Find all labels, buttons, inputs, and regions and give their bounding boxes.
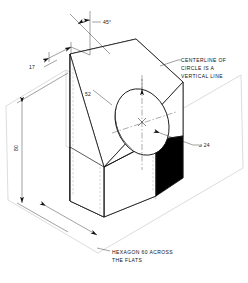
- centerline-note-line-1: CENTERLINE OF: [181, 57, 226, 65]
- dim17-line: [49, 47, 71, 58]
- dimension-label-52: 52: [85, 91, 91, 99]
- centerline-note: CENTERLINE OF CIRCLE IS A VERTICAL LINE: [181, 57, 226, 80]
- isometric-drawing-canvas: [0, 0, 248, 283]
- dim17-leader: [44, 60, 57, 67]
- dimension-label-17: 17: [29, 64, 35, 72]
- angle-arc: [78, 20, 90, 24]
- dim80-ext-top: [17, 73, 68, 103]
- centerline-note-line-3: VERTICAL LINE: [181, 73, 226, 81]
- dimension-80: [17, 73, 68, 232]
- hexagon-note-line-2: THE FLATS: [112, 257, 173, 265]
- hole-diameter-label: ⌀ 24: [199, 142, 210, 150]
- dimension-label-80: 80: [13, 145, 21, 151]
- technical-drawing-page: 45° 17 52 80 ⌀ 24 CENTERLINE OF CIRCLE I…: [0, 0, 248, 283]
- centerline-note-line-2: CIRCLE IS A: [181, 65, 226, 73]
- dim80-ext-bottom: [17, 203, 68, 232]
- hexagon-note: HEXAGON 60 ACROSS THE FLATS: [112, 249, 173, 265]
- angle-dimension-label: 45°: [103, 19, 111, 27]
- hexagon-note-line-1: HEXAGON 60 ACROSS: [112, 249, 173, 257]
- hex-leader-line: [97, 248, 110, 251]
